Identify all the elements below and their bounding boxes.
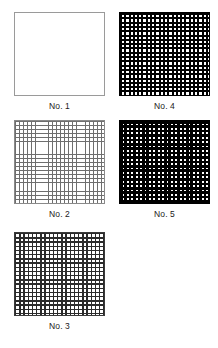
- swatch-pattern-fine-light-grid: [14, 120, 105, 204]
- swatch-pattern-densest-grid: [119, 120, 210, 204]
- swatch-chart: No. 1 No. 2 No. 3 No. 4 No. 5: [0, 0, 218, 348]
- swatch-pattern-blank: [14, 12, 105, 96]
- swatch-item-no-5: No. 5: [119, 120, 210, 219]
- swatch-label-no-2: No. 2: [14, 204, 105, 219]
- swatch-label-no-1: No. 1: [14, 96, 105, 111]
- swatch-pattern-medium-grid: [14, 232, 105, 316]
- swatch-pattern-heavy-grid: [119, 12, 210, 96]
- swatch-item-no-1: No. 1: [14, 12, 105, 111]
- swatch-label-no-5: No. 5: [119, 204, 210, 219]
- swatch-label-no-4: No. 4: [119, 96, 210, 111]
- swatch-label-no-3: No. 3: [14, 316, 105, 331]
- swatch-item-no-3: No. 3: [14, 232, 105, 331]
- swatch-item-no-2: No. 2: [14, 120, 105, 219]
- swatch-item-no-4: No. 4: [119, 12, 210, 111]
